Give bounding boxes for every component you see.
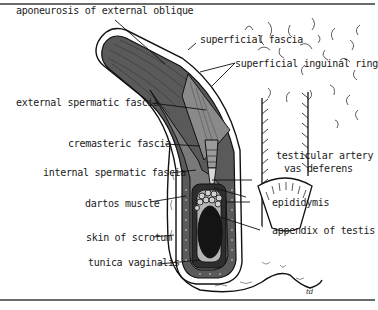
label-appendix-of-testis: appendix of testis	[272, 225, 375, 237]
label-skin-of-scrotum: skin of scrotum	[86, 232, 172, 244]
label-dartos-muscle: dartos muscle	[85, 198, 159, 210]
label-epididymis: epididymis	[272, 197, 329, 209]
label-cremasteric-fascia: cremasteric fascia	[68, 138, 171, 150]
label-external-spermatic-fascia: external spermatic fascia	[16, 97, 159, 109]
artist-signature: td	[306, 288, 313, 296]
label-aponeurosis-of-external-oblique: aponeurosis of external oblique	[16, 5, 193, 17]
label-internal-spermatic-fascia: internal spermatic fascia	[43, 167, 186, 179]
label-testicular-artery: testicular artery	[276, 150, 373, 162]
label-superficial-inguinal-ring: superficial inguinal ring	[235, 58, 378, 70]
testis	[198, 206, 222, 258]
label-superficial-fascia: superficial fascia	[200, 34, 303, 46]
label-vas-deferens: vas deferens	[284, 163, 353, 175]
label-tunica-vaginalis: tunica vaginalis	[88, 257, 180, 269]
